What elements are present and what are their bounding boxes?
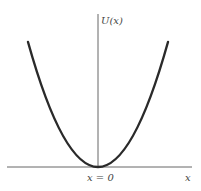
potential-energy-diagram: U(x) x x = 0 xyxy=(0,0,201,191)
diagram-svg: U(x) x x = 0 xyxy=(0,0,201,191)
y-axis-label: U(x) xyxy=(101,15,123,26)
x-axis-label: x xyxy=(185,172,191,183)
origin-label: x = 0 xyxy=(87,172,114,183)
